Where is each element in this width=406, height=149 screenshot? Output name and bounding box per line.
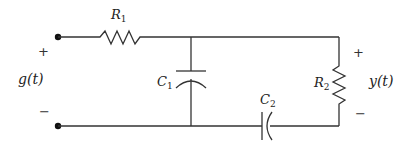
label-r2: R2: [313, 75, 330, 92]
resistor-r2: [333, 37, 345, 126]
label-c2: C2: [260, 92, 276, 109]
input-label-g: g(t): [18, 71, 44, 87]
circuit-diagram: R1 C1 C2 R2 + g(t) − + y(t) −: [0, 0, 406, 149]
output-label-y: y(t): [368, 73, 393, 89]
circuit-svg: R1 C1 C2 R2 + g(t) − + y(t) −: [0, 0, 406, 149]
label-c1: C1: [157, 74, 173, 91]
input-plus-sign: +: [38, 44, 49, 59]
resistor-r1: [58, 31, 339, 44]
input-minus-sign: −: [39, 104, 50, 119]
label-r1: R1: [110, 7, 127, 24]
capacitor-c1: [176, 37, 206, 126]
output-plus-sign: +: [353, 45, 364, 60]
output-minus-sign: −: [355, 106, 366, 121]
